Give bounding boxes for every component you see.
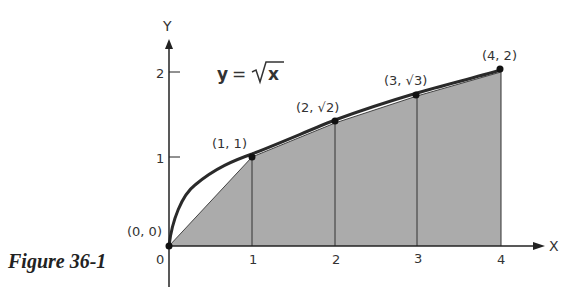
point-0-0 bbox=[166, 243, 173, 250]
equation-equals: = bbox=[232, 64, 246, 84]
point-4-2 bbox=[497, 66, 504, 73]
x-tick-label-1: 1 bbox=[249, 252, 257, 267]
x-tick-label-2: 2 bbox=[332, 252, 340, 267]
x-axis-label: X bbox=[549, 238, 559, 254]
figure-plot: Y X 0 2 1 1 2 3 4 (0, 0) (1, 1) (2, √2) … bbox=[0, 0, 583, 291]
point-label-3-sqrt3: (3, √3) bbox=[384, 73, 427, 88]
x-tick-label-3: 3 bbox=[414, 251, 422, 266]
point-1-1 bbox=[249, 154, 256, 161]
x-tick-label-4: 4 bbox=[497, 252, 505, 267]
equation-lhs: y bbox=[217, 64, 228, 84]
point-2-sqrt2 bbox=[332, 118, 339, 125]
origin-label: 0 bbox=[156, 252, 164, 267]
y-axis-arrow-icon bbox=[165, 39, 173, 49]
y-axis-label: Y bbox=[162, 18, 172, 34]
y-tick-label-1: 1 bbox=[156, 151, 164, 166]
point-label-1-1: (1, 1) bbox=[212, 136, 247, 151]
point-label-2-sqrt2: (2, √2) bbox=[296, 100, 339, 115]
x-axis-arrow-icon bbox=[533, 242, 545, 250]
y-tick-label-2: 2 bbox=[156, 66, 164, 81]
figure-caption: Figure 36-1 bbox=[8, 250, 106, 273]
equation-radicand: x bbox=[268, 64, 279, 84]
equation-label: y = x bbox=[217, 62, 284, 84]
point-label-4-2: (4, 2) bbox=[482, 48, 517, 63]
point-label-0-0: (0, 0) bbox=[127, 224, 162, 239]
point-3-sqrt3 bbox=[413, 92, 420, 99]
